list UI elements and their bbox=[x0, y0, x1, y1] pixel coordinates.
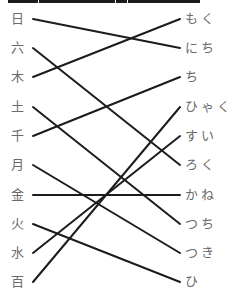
connection-line bbox=[33, 77, 180, 136]
connection-line bbox=[33, 107, 180, 224]
kanji-label: 日 bbox=[8, 11, 26, 27]
kanji-label: 六 bbox=[8, 40, 26, 56]
reading-label: ち bbox=[185, 69, 201, 85]
reading-label: にち bbox=[185, 40, 217, 56]
kanji-label: 水 bbox=[8, 245, 26, 261]
kanji-label: 月 bbox=[8, 157, 26, 173]
kanji-label: 土 bbox=[8, 99, 26, 115]
connection-line bbox=[33, 19, 180, 48]
reading-label: つき bbox=[185, 245, 217, 261]
kanji-label: 火 bbox=[8, 216, 26, 232]
reading-label: もく bbox=[185, 11, 217, 27]
reading-label: ろく bbox=[185, 157, 217, 173]
reading-label: かね bbox=[185, 187, 217, 203]
kanji-label: 百 bbox=[8, 274, 26, 290]
reading-label: ひゃく bbox=[185, 99, 233, 115]
reading-label: すい bbox=[185, 128, 217, 144]
kanji-label: 木 bbox=[8, 69, 26, 85]
connection-line bbox=[33, 19, 180, 77]
connection-line bbox=[33, 224, 180, 282]
reading-label: つち bbox=[185, 216, 217, 232]
connection-line bbox=[33, 165, 180, 253]
kanji-label: 金 bbox=[8, 187, 26, 203]
kanji-label: 千 bbox=[8, 128, 26, 144]
reading-label: ひ bbox=[185, 274, 201, 290]
